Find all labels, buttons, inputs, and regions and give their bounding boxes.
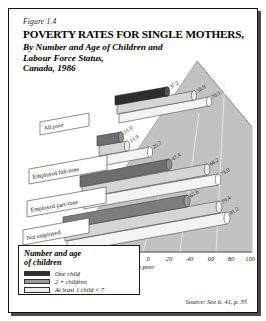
data-label: 13.9 xyxy=(128,133,140,143)
chart-legend: Number and age of children One child 2 +… xyxy=(18,245,140,295)
legend-entries: One child 2 + children At least 1 child … xyxy=(24,270,134,294)
legend-swatch-icon xyxy=(24,279,50,284)
legend-item-child-under-seven: At least 1 child < 7 xyxy=(24,286,134,294)
data-label: 11.0 xyxy=(122,124,133,134)
data-label: 37.2 xyxy=(168,79,180,89)
x-tick-label: 40 xyxy=(187,255,194,262)
legend-title: Number and age of children xyxy=(24,249,134,268)
legend-label: At least 1 child < 7 xyxy=(55,286,104,293)
legend-title-line1: Number and age xyxy=(24,249,134,258)
x-tick-label: 80 xyxy=(228,255,235,262)
legend-label: 2 + children xyxy=(55,278,87,285)
legend-item-one-child: One child xyxy=(24,270,134,278)
figure-card: Figure 1.4 POVERTY RATES FOR SINGLE MOTH… xyxy=(8,8,258,313)
x-tick-label: 60 xyxy=(208,255,215,262)
legend-swatch-icon xyxy=(24,287,50,292)
legend-item-two-plus-children: 2 + children xyxy=(24,278,134,286)
legend-label: One child xyxy=(55,270,80,277)
x-tick-label: 100 xyxy=(245,255,255,262)
source-note: Source: See b. 41, p. 35 xyxy=(186,298,248,305)
x-tick-label: 20 xyxy=(166,255,173,262)
legend-swatch-icon xyxy=(24,271,50,276)
category-tag-all-poor: All poor xyxy=(40,113,89,135)
x-tick-label: 0 xyxy=(146,255,150,262)
legend-title-line2: of children xyxy=(24,258,134,267)
